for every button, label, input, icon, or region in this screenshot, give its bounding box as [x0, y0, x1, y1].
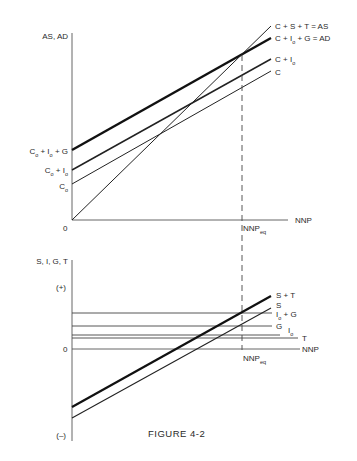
bottom-minus-label: (–) [56, 431, 66, 440]
s-line [72, 308, 271, 418]
top-origin-label: 0 [63, 224, 68, 233]
top-x-axis-label: NNP [295, 216, 312, 225]
io-plus-g-label: Io + G [276, 310, 297, 321]
figure-4-2-diagram: AS, AD NNP 0 C + S + T = AS C + Io + G =… [0, 0, 357, 461]
ad-intercept-label: Co + Io + G [29, 147, 68, 158]
s-plus-t-label: S + T [276, 291, 295, 300]
top-equilibrium-label: NNPeq [243, 224, 266, 235]
bottom-zero-label: 0 [63, 345, 68, 354]
as-curve-label: C + S + T = AS [275, 22, 328, 31]
bottom-equilibrium-label: NNPeq [243, 354, 266, 365]
top-panel: AS, AD NNP 0 C + S + T = AS C + Io + G =… [29, 22, 330, 235]
g-label: G [276, 322, 282, 331]
t-label: T [302, 334, 307, 343]
ad-curve-label: C + Io + G = AD [275, 34, 331, 45]
bottom-nnp-label: NNP [302, 345, 319, 354]
c-intercept-label: Co [59, 182, 68, 193]
bottom-panel: S, I, G, T (+) 0 (–) S + T S Io + G G Io… [36, 257, 319, 441]
c-io-curve-label: C + Io [275, 55, 295, 66]
bottom-y-axis-label: S, I, G, T [36, 257, 68, 266]
io-label: Io [288, 326, 293, 337]
c-line [72, 71, 271, 184]
c-io-intercept-label: Co + Io [45, 166, 68, 177]
s-label: S [276, 301, 281, 310]
aggregate-supply-line [72, 26, 271, 220]
figure-caption: FIGURE 4-2 [148, 428, 205, 439]
c-plus-io-line [72, 59, 271, 170]
c-curve-label: C [275, 68, 281, 77]
bottom-plus-label: (+) [56, 283, 66, 292]
top-y-axis-label: AS, AD [42, 32, 68, 41]
